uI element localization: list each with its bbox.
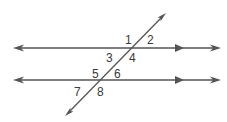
angle-label-4: 4	[129, 51, 136, 65]
angle-label-2: 2	[147, 33, 154, 47]
parallel-marker-icon	[175, 44, 184, 52]
angle-label-1: 1	[125, 33, 132, 47]
parallel-lines-transversal-diagram: 1 2 3 4 5 6 7 8	[0, 0, 227, 122]
angle-label-5: 5	[92, 67, 99, 81]
top-parallel-line	[13, 44, 221, 52]
angle-label-6: 6	[114, 67, 121, 81]
angle-label-7: 7	[74, 85, 81, 99]
angle-label-8: 8	[97, 85, 104, 99]
transversal-line	[65, 13, 166, 116]
angle-label-3: 3	[106, 51, 113, 65]
parallel-marker-icon	[175, 76, 184, 84]
